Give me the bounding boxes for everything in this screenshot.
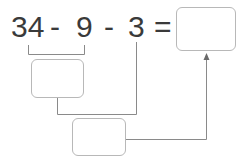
answer-box[interactable]	[176, 7, 236, 51]
minus-sign-2: -	[104, 10, 114, 44]
step1-box[interactable]	[31, 59, 84, 98]
minus-sign-1: -	[50, 10, 60, 44]
operand-9: 9	[76, 10, 93, 44]
operand-34: 34	[11, 10, 44, 44]
step2-box[interactable]	[72, 118, 126, 156]
operand-3: 3	[128, 10, 145, 44]
equals-sign: =	[154, 10, 172, 44]
